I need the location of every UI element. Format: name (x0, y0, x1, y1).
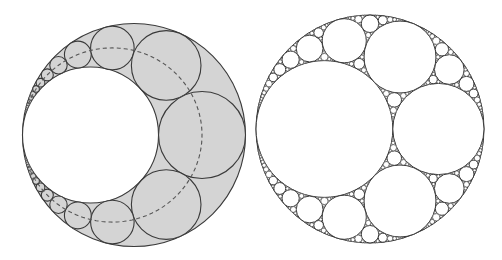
gasket-circle (287, 50, 288, 51)
chain-circle (364, 21, 436, 93)
apollonian-gasket-svg (251, 0, 502, 260)
gasket-circle (386, 240, 388, 242)
gasket-circle (346, 63, 347, 64)
gasket-circle (477, 102, 481, 106)
gasket-circle (428, 177, 429, 178)
gasket-circle (379, 87, 380, 88)
gasket-circle (289, 188, 291, 190)
gasket-circle (435, 36, 436, 37)
gasket-circle (298, 63, 300, 65)
gasket-circle (392, 117, 394, 119)
gasket-circle (477, 95, 479, 97)
gasket-circle (348, 239, 350, 241)
gasket-circle (267, 178, 269, 180)
gasket-circle (304, 195, 306, 197)
gasket-circle (265, 172, 266, 173)
gasket-circle (424, 29, 425, 30)
gasket-circle (378, 16, 387, 25)
gasket-circle (333, 60, 334, 61)
gasket-circle (464, 187, 467, 190)
gasket-circle (295, 51, 297, 53)
chain-circle (25, 159, 27, 161)
gasket-circle (296, 42, 298, 44)
gasket-circle (375, 241, 377, 243)
gasket-circle (479, 106, 482, 109)
gasket-circle (479, 155, 480, 156)
gasket-circle (360, 69, 362, 71)
gasket-circle (321, 40, 322, 41)
gasket-circle (379, 170, 380, 171)
gasket-circle (402, 20, 403, 21)
gasket-circle (396, 107, 398, 109)
chain-circle (131, 31, 201, 101)
gasket-circle (436, 203, 438, 205)
gasket-circle (469, 181, 471, 183)
gasket-circle (370, 224, 372, 226)
gasket-circle (458, 170, 460, 172)
gasket-circle (469, 89, 478, 98)
gasket-circle (423, 84, 424, 85)
gasket-circle (272, 185, 275, 188)
gasket-circle (379, 241, 380, 242)
gasket-circle (268, 87, 269, 88)
gasket-circle (436, 197, 438, 199)
gasket-circle (389, 106, 391, 108)
gasket-circle (442, 41, 443, 42)
gasket-circle (399, 237, 401, 239)
gasket-circle (386, 16, 388, 18)
gasket-circle (359, 200, 360, 201)
gasket-circle (402, 158, 404, 160)
gasket-circle (479, 149, 482, 152)
pappus-chain-svg (0, 0, 251, 260)
gasket-circle (354, 241, 355, 242)
gasket-circle (348, 17, 350, 19)
gasket-circle (452, 172, 454, 174)
gasket-circle (359, 57, 360, 58)
gasket-circle (458, 82, 460, 84)
gasket-circle (353, 61, 354, 62)
gasket-circle (375, 15, 377, 17)
gasket-circle (329, 234, 330, 235)
gasket-circle (402, 237, 403, 238)
gasket-circle (346, 239, 347, 240)
gasket-circle (430, 174, 431, 175)
chain-circle (282, 51, 299, 68)
gasket-circle (277, 75, 279, 77)
chain-circle (258, 149, 259, 150)
gasket-circle (323, 207, 324, 208)
gasket-circle (272, 175, 274, 177)
gasket-circle (320, 26, 322, 28)
gasket-circle (280, 198, 282, 200)
gasket-circle (376, 15, 379, 18)
gasket-circle (306, 195, 307, 196)
gasket-circle (474, 85, 475, 86)
gasket-circle (282, 194, 283, 195)
gasket-circle (321, 53, 328, 60)
gasket-circle (467, 164, 470, 167)
gasket-circle (307, 223, 308, 224)
gasket-circle (321, 197, 328, 204)
gasket-circle (328, 197, 331, 200)
gasket-circle (319, 37, 322, 40)
gasket-circle (365, 225, 367, 227)
gasket-circle (306, 62, 307, 63)
gasket-circle (429, 75, 437, 83)
gasket-circle (393, 18, 397, 22)
gasket-circle (482, 115, 483, 116)
gasket-circle (379, 15, 380, 16)
gasket-circle (317, 59, 319, 61)
gasket-circle (474, 172, 475, 173)
gasket-circle (399, 93, 401, 95)
gasket-circle (389, 150, 391, 152)
gasket-circle (423, 172, 424, 173)
gasket-circle (399, 163, 401, 165)
gasket-circle (363, 59, 364, 60)
gasket-circle (389, 164, 391, 166)
gasket-circle (431, 39, 432, 40)
gasket-circle (313, 226, 315, 228)
gasket-circle (455, 54, 457, 56)
gasket-circle (401, 160, 407, 166)
gasket-circle (376, 240, 379, 243)
gasket-circle (392, 139, 394, 141)
gasket-circle (313, 30, 315, 32)
